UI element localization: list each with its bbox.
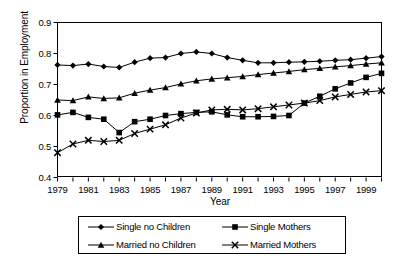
x-axis-label: Year: [160, 196, 280, 207]
series-single-mothers: [55, 71, 385, 136]
chart-figure: 0.40.50.60.70.80.9 197919811983198519871…: [0, 0, 418, 259]
y-tick-label: 0.5: [17, 142, 51, 151]
x-tick-label: 1999: [346, 185, 386, 194]
y-tick-label: 0.4: [17, 173, 51, 182]
triangle-marker-icon: [87, 238, 115, 252]
legend-item-single-mothers: Single Mothers: [221, 218, 311, 235]
legend-item-married-mothers: Married Mothers: [221, 236, 316, 253]
y-axis-label: Proportion in Employment: [19, 0, 30, 143]
x-marker-icon: [221, 238, 249, 252]
square-marker-icon: [221, 220, 249, 234]
legend-label: Married no Children: [115, 239, 196, 250]
legend-item-married-no-children: Married no Children: [87, 236, 196, 253]
legend-label: Single Mothers: [249, 221, 311, 232]
legend-label: Single no Children: [115, 221, 190, 232]
chart-legend: Single no ChildrenSingle MothersMarried …: [78, 216, 346, 254]
diamond-marker-icon: [87, 220, 115, 234]
legend-label: Married Mothers: [249, 239, 316, 250]
legend-item-single-no-children: Single no Children: [87, 218, 190, 235]
